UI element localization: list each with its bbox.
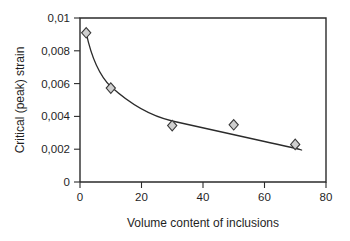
critical-strain-scatter-chart: 0 0,002 0,004 0,006 0,008 0,01 0 20 40 6… xyxy=(0,0,350,241)
y-tick-label-5: 0,01 xyxy=(48,12,70,24)
y-tick-label-1: 0,002 xyxy=(41,143,70,155)
x-tick-label-1: 20 xyxy=(135,191,148,203)
x-tick-label-0: 0 xyxy=(77,191,83,203)
y-tick-label-0: 0 xyxy=(64,176,70,188)
chart-container: 0 0,002 0,004 0,006 0,008 0,01 0 20 40 6… xyxy=(0,0,350,241)
y-tick-label-4: 0,008 xyxy=(41,45,70,57)
y-axis-title: Critical (peak) strain xyxy=(13,47,27,154)
x-axis-title: Volume content of inclusions xyxy=(127,216,279,230)
x-tick-label-3: 60 xyxy=(258,191,271,203)
y-tick-label-3: 0,006 xyxy=(41,78,70,90)
y-tick-label-2: 0,004 xyxy=(41,110,70,122)
x-tick-label-2: 40 xyxy=(197,191,210,203)
x-tick-label-4: 80 xyxy=(320,191,333,203)
